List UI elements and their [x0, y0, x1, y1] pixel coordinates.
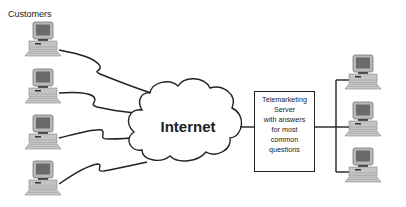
telemarketing-server-label: Telemarketing Server with answers for mo… [257, 95, 312, 155]
customer-computer-icon [25, 22, 61, 56]
customers-label: Customers [8, 9, 52, 19]
agent-computer-icon [345, 55, 381, 89]
server-label-line: Telemarketing [257, 95, 312, 105]
server-label-line: for most [257, 125, 312, 135]
customer-computer-icon [25, 115, 61, 149]
diagram-canvas [0, 0, 406, 207]
agent-computer-icon [345, 102, 381, 136]
server-label-line: Server [257, 105, 312, 115]
customer-computer-icon [25, 161, 61, 195]
customer-computer-icon [25, 69, 61, 103]
server-label-line: common [257, 135, 312, 145]
internet-label: Internet [148, 118, 228, 135]
server-label-line: questions [257, 145, 312, 155]
server-label-line: with answers [257, 115, 312, 125]
agent-computer-icon [345, 148, 381, 182]
